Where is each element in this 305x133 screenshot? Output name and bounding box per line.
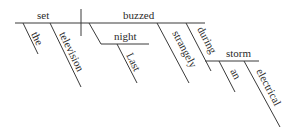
preposition-during: during	[195, 24, 219, 55]
sentence-diagram: set buzzed the television night Last str…	[0, 0, 305, 133]
verb-word: buzzed	[123, 9, 155, 21]
modifier-last: Last	[124, 51, 143, 73]
subject-word: set	[37, 9, 49, 21]
prepositional-object-storm: storm	[226, 47, 252, 59]
adverbial-noun-connector	[89, 23, 101, 44]
modifier-an: an	[228, 66, 244, 81]
adverbial-noun-night: night	[114, 30, 137, 42]
modifier-television: television	[57, 30, 87, 74]
modifier-strangely: strangely	[170, 28, 200, 70]
modifier-the: the	[29, 30, 46, 47]
